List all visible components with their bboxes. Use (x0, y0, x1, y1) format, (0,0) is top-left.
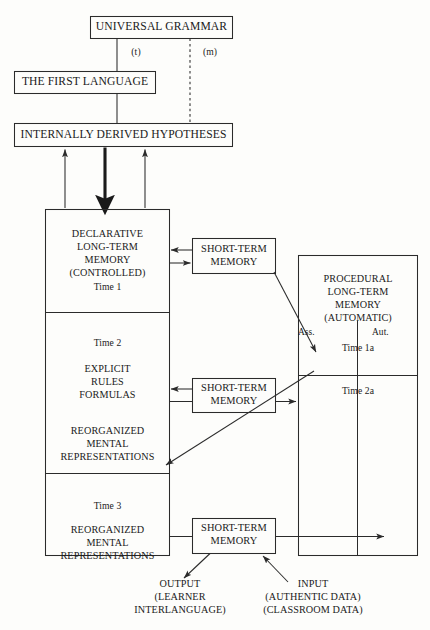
explicit-rules-label: EXPLICIT RULES FORMULAS (47, 362, 168, 401)
diagram-canvas: UNIVERSAL GRAMMAR (t) (m) THE FIRST LANG… (0, 0, 430, 630)
stm3-to-output-arrow (184, 554, 210, 579)
markedness-edge-label: (m) (196, 46, 224, 57)
universal-grammar-label: UNIVERSAL GRAMMAR (90, 20, 233, 34)
procedural-associative-label: Ass. (298, 327, 330, 338)
reorganized-representations-time2-label: REORGANIZED MENTAL REPRESENTATIONS (47, 424, 168, 463)
stm-box-1-label: SHORT-TERM MEMORY (192, 243, 276, 268)
time-3-label: Time 3 (47, 500, 168, 511)
stm-box-3-label: SHORT-TERM MEMORY (192, 522, 276, 547)
reorganized-representations-time3-label: REORGANIZED MENTAL REPRESENTATIONS (44, 523, 171, 562)
time-2a-label: Time 2a (326, 385, 390, 396)
time-1a-label: Time 1a (326, 342, 390, 353)
declarative-time-label: Time 1 (47, 281, 168, 292)
declarative-memory-label: DECLARATIVE LONG-TERM MEMORY (CONTROLLED… (47, 227, 168, 279)
input-label: INPUT (AUTHENTIC DATA) (CLASSROOM DATA) (237, 578, 389, 617)
procedural-automatic-label: Aut. (372, 327, 404, 338)
explicit-time-label: Time 2 (47, 337, 168, 348)
procedural-memory-label: PROCEDURAL LONG-TERM MEMORY (AUTOMATIC) (300, 272, 416, 324)
transfer-edge-label: (t) (122, 46, 150, 57)
output-label: OUTPUT (LEARNER INTERLANGUAGE) (110, 578, 250, 617)
internal-hypotheses-label: INTERNALLY DERIVED HYPOTHESES (14, 128, 233, 142)
first-language-label: THE FIRST LANGUAGE (14, 75, 156, 89)
stm-box-2-label: SHORT-TERM MEMORY (192, 382, 276, 407)
